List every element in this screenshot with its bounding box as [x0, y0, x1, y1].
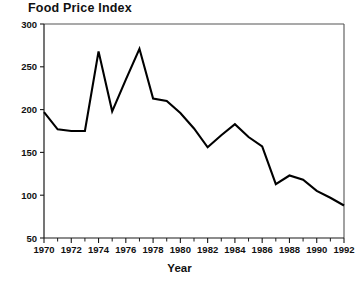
y-tick-label-50: 50 [26, 233, 37, 244]
x-tick-label-1976: 1976 [115, 244, 136, 255]
x-tick-label-1972: 1972 [61, 244, 82, 255]
x-tick-label-1992: 1992 [333, 244, 354, 255]
x-tick-label-1978: 1978 [143, 244, 164, 255]
y-tick-label-150: 150 [21, 147, 37, 158]
plot-area: 50100150200250300 1970197219741976197819… [0, 0, 359, 284]
axes [44, 24, 344, 238]
plot-frame [44, 24, 344, 238]
x-axis-ticks [44, 238, 344, 243]
y-axis-tick-labels: 50100150200250300 [21, 19, 37, 244]
y-tick-label-100: 100 [21, 190, 37, 201]
food-price-index-chart: Food Price Index 50100150200250300 19701… [0, 0, 359, 284]
data-series-line [44, 49, 344, 206]
x-tick-label-1980: 1980 [170, 244, 191, 255]
x-tick-label-1974: 1974 [88, 244, 110, 255]
x-tick-label-1988: 1988 [279, 244, 300, 255]
x-tick-label-1982: 1982 [197, 244, 218, 255]
y-tick-label-250: 250 [21, 61, 37, 72]
y-tick-label-200: 200 [21, 104, 37, 115]
x-tick-label-1970: 1970 [33, 244, 54, 255]
x-tick-label-1986: 1986 [252, 244, 273, 255]
y-tick-label-300: 300 [21, 19, 37, 30]
x-tick-label-1990: 1990 [306, 244, 327, 255]
x-tick-label-1984: 1984 [224, 244, 246, 255]
x-axis-label: Year [0, 262, 359, 274]
x-axis-tick-labels: 1970197219741976197819801982198419861988… [33, 244, 354, 255]
